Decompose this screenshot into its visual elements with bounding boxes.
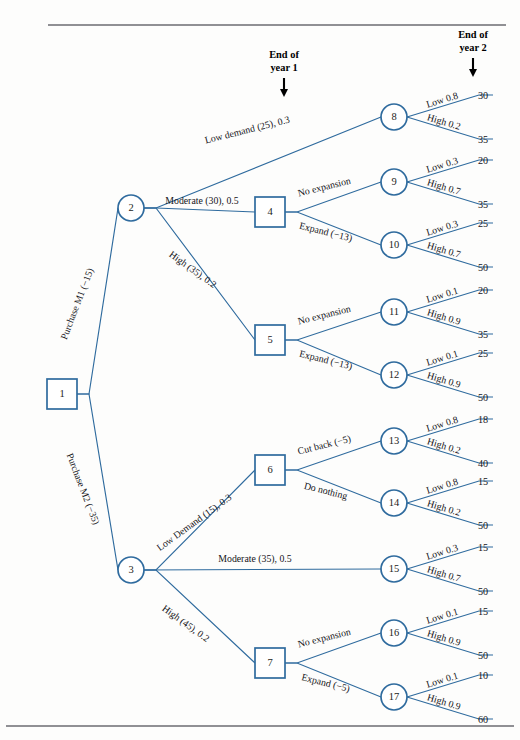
node-label-9: 9 (391, 176, 396, 187)
marker-end-of-year-1: End ofyear 1 (269, 49, 299, 97)
node-label-11: 11 (389, 306, 399, 317)
node-label-2: 2 (128, 202, 133, 213)
branch-label-e2-4: Moderate (30), 0.5 (165, 195, 239, 207)
node-2[interactable]: 2 (118, 195, 144, 221)
node-label-6: 6 (267, 464, 272, 475)
node-label-14: 14 (389, 497, 400, 508)
branch-label-e3-15: Moderate (35), 0.5 (218, 553, 292, 565)
terminal-value-L14a: 15 (478, 476, 488, 487)
node-5[interactable]: 5 (255, 325, 285, 355)
marker-line1-end-of-year-1: End of (269, 49, 299, 60)
terminal-value-L10a: 25 (478, 218, 488, 229)
node-label-16: 16 (389, 627, 400, 638)
branch-label-e2-8: Low demand (25), 0.3 (203, 114, 291, 147)
node-6[interactable]: 6 (255, 455, 285, 485)
node-7[interactable]: 7 (255, 648, 285, 678)
branch-label-e3-7: High (45), 0.2 (160, 602, 212, 644)
decision-tree-figure: 1234567891011121314151617 Purchase M1 (−… (0, 0, 520, 740)
branch-labels: Purchase M1 (−15)Purchase M2 (−35)Low de… (58, 114, 353, 695)
node-1[interactable]: 1 (47, 379, 77, 409)
terminal-value-L17b: 60 (478, 714, 488, 725)
marker-end-of-year-2: End ofyear 2 (458, 29, 488, 77)
node-13[interactable]: 13 (381, 428, 407, 454)
marker-arrow-head-end-of-year-1 (280, 89, 288, 97)
branch-label-e6-14: Do nothing (303, 480, 349, 501)
node-label-8: 8 (391, 111, 396, 122)
terminal-value-L9b: 35 (478, 199, 488, 210)
stage-markers: End ofyear 1End ofyear 2 (269, 29, 488, 97)
node-10[interactable]: 10 (381, 232, 407, 258)
terminal-labels: Low 0.830High 0.235Low 0.320High 0.735Lo… (425, 90, 488, 725)
node-label-5: 5 (267, 334, 272, 345)
node-16[interactable]: 16 (381, 620, 407, 646)
node-12[interactable]: 12 (381, 362, 407, 388)
marker-line1-end-of-year-2: End of (458, 29, 488, 40)
terminal-value-L9a: 20 (478, 155, 488, 166)
terminal-value-L8b: 35 (478, 134, 488, 145)
terminal-value-L16a: 15 (478, 606, 488, 617)
branch-label-e2-5: High (35), 0.2 (167, 248, 219, 290)
node-label-4: 4 (267, 206, 273, 217)
terminal-value-L12a: 25 (478, 348, 488, 359)
node-9[interactable]: 9 (381, 169, 407, 195)
terminal-value-L12b: 50 (478, 392, 488, 403)
branch-label-e5-11: No expansion (297, 303, 352, 327)
terminal-value-L16b: 50 (478, 650, 488, 661)
marker-line2-end-of-year-1: year 1 (270, 62, 297, 73)
terminal-value-L14b: 50 (478, 520, 488, 531)
terminal-value-L13a: 18 (478, 414, 488, 425)
branch-label-e1-2: Purchase M1 (−15) (58, 266, 96, 341)
node-label-10: 10 (389, 239, 400, 250)
branch-e3-7 (144, 570, 255, 663)
branch-label-e3-6: Low Demand (15), 0.3 (155, 491, 235, 553)
node-label-17: 17 (389, 691, 400, 702)
node-17[interactable]: 17 (381, 684, 407, 710)
terminal-value-L15b: 50 (478, 586, 488, 597)
terminal-value-L13b: 40 (478, 458, 488, 469)
node-8[interactable]: 8 (381, 104, 407, 130)
terminal-value-L11b: 35 (478, 329, 488, 340)
node-label-7: 7 (267, 657, 272, 668)
terminal-value-L15a: 15 (478, 542, 488, 553)
branch-label-e1-3: Purchase M2 (−35) (64, 451, 102, 526)
branch-e2-4 (144, 208, 255, 212)
decision-tree-canvas: 1234567891011121314151617 Purchase M1 (−… (0, 0, 520, 740)
node-label-13: 13 (389, 435, 400, 446)
terminal-value-L8a: 30 (478, 90, 488, 101)
marker-arrow-head-end-of-year-2 (469, 69, 477, 77)
node-4[interactable]: 4 (255, 197, 285, 227)
marker-line2-end-of-year-2: year 2 (459, 42, 486, 53)
node-label-3: 3 (128, 564, 133, 575)
node-label-15: 15 (389, 563, 400, 574)
terminal-value-L17a: 10 (478, 670, 488, 681)
terminal-value-L11a: 20 (478, 285, 488, 296)
node-11[interactable]: 11 (381, 299, 407, 325)
node-15[interactable]: 15 (381, 556, 407, 582)
branch-e3-15 (144, 569, 381, 570)
terminal-value-L10b: 50 (478, 262, 488, 273)
node-3[interactable]: 3 (118, 557, 144, 583)
node-label-1: 1 (59, 388, 64, 399)
node-14[interactable]: 14 (381, 490, 407, 516)
node-label-12: 12 (389, 369, 400, 380)
